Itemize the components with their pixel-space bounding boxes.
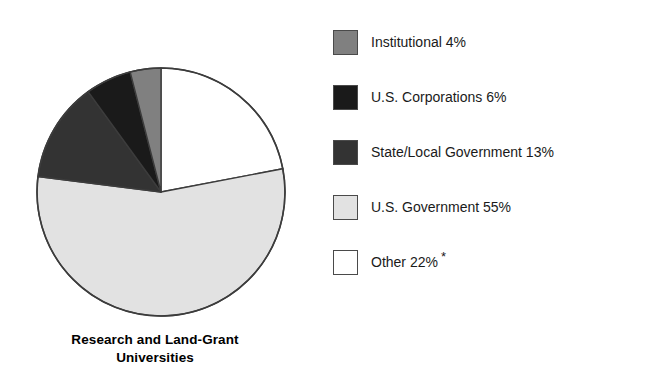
legend-label-us-government: U.S. Government 55%: [371, 199, 511, 215]
legend-swatch-icon-us-government: [333, 195, 358, 220]
legend-swatch-icon-other: [333, 250, 358, 275]
pie-chart-area: Research and Land-Grant Universities: [0, 0, 310, 385]
legend-item-institutional[interactable]: Institutional 4%: [333, 29, 643, 55]
legend-label-state-local-government: State/Local Government 13%: [371, 144, 554, 160]
legend-swatch-icon-institutional: [333, 30, 358, 55]
legend-item-us-government[interactable]: U.S. Government 55%: [333, 194, 643, 220]
legend-swatch-icon-state-local-government: [333, 140, 358, 165]
legend-item-other[interactable]: Other 22%*: [333, 249, 643, 275]
legend-item-state-local-government[interactable]: State/Local Government 13%: [333, 139, 643, 165]
pie-slice-group: [37, 68, 285, 316]
pie-chart-figure: Research and Land-Grant Universities Ins…: [0, 0, 645, 385]
pie-caption-line-2: Universities: [0, 349, 310, 367]
legend-swatch-icon-us-corporations: [333, 85, 358, 110]
legend-label-other-text: Other 22%: [371, 254, 438, 270]
legend-label-other: Other 22%*: [371, 254, 446, 270]
pie-caption-line-1: Research and Land-Grant: [0, 331, 310, 349]
chart-legend: Institutional 4% U.S. Corporations 6% St…: [333, 29, 643, 275]
legend-item-us-corporations[interactable]: U.S. Corporations 6%: [333, 84, 643, 110]
legend-label-us-corporations: U.S. Corporations 6%: [371, 89, 506, 105]
footnote-asterisk-icon: *: [441, 249, 446, 264]
legend-label-institutional: Institutional 4%: [371, 34, 466, 50]
pie-caption: Research and Land-Grant Universities: [0, 331, 310, 367]
pie-chart-svg: [0, 0, 310, 330]
